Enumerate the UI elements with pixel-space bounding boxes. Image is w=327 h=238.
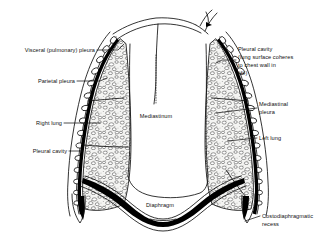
label-parietal-pleura: Parietal pleura [38,78,76,84]
leader-costodiaphragmatic-recess [245,216,260,221]
label-pleural-cavity-note: Pleural cavity (lung surface coheres to … [238,46,293,76]
label-pleural-cavity-left: Pleural cavity [33,148,67,154]
label-visceral-pleura: Visceral (pulmonary) pleura [25,47,96,53]
anatomy-figure: Visceral (pulmonary) pleura Parietal ple… [0,0,327,238]
label-pleural-cavity-note-line3: to chest wall in [238,62,276,68]
thorax-coronal-diagram: Visceral (pulmonary) pleura Parietal ple… [0,0,327,238]
label-right-lung: Right lung [36,120,62,126]
label-costodiaphragmatic-recess-line1: Costodiaphragmatic [262,213,313,219]
label-mediastinal-pleura-line2: pleura [259,109,276,115]
label-pleural-cavity-note-line1: Pleural cavity [238,46,272,52]
label-pleural-cavity-note-line4: life) [238,70,247,76]
label-costodiaphragmatic-recess-line2: recess [262,221,279,227]
label-costodiaphragmatic-recess: Costodiaphragmatic recess [262,213,313,227]
label-pleural-cavity-note-line2: (lung surface coheres [238,54,293,60]
label-mediastinal-pleura: Mediastinal pleura [259,101,288,115]
trachea-neck-outline [113,10,217,40]
label-mediastinum: Mediastinum [140,113,173,119]
label-diaphragm: Diaphragm [146,202,174,208]
label-left-lung: Left lung [259,135,281,141]
label-mediastinal-pleura-line1: Mediastinal [259,101,288,107]
